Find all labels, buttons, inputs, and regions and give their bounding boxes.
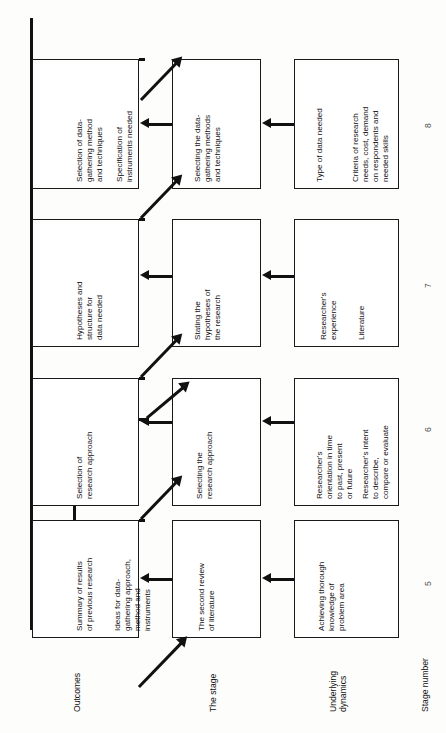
stage-text-5: The second review of literature xyxy=(197,563,217,631)
row-label-stage-number: Stage number xyxy=(420,658,430,712)
arrow-head-5-stage-to-outcomes xyxy=(140,573,149,583)
dynamics-text-6-a: Researcher's orientation in time to past… xyxy=(315,435,354,499)
arrow-shaft-7-dynamics-to-stage xyxy=(271,275,294,278)
stage-box-stage-7: Stating the hypotheses of the research xyxy=(172,219,261,347)
stage-box-stage-6: Selecting the research approach xyxy=(172,378,261,506)
outcomes-box-stage-7: Hypotheses and structure for data needed xyxy=(32,219,139,347)
arrow-shaft-6-stage-to-outcomes xyxy=(149,421,172,424)
stage-number-5: 5 xyxy=(423,581,433,586)
row-label-the-stage: The stage xyxy=(208,674,218,712)
stage-box-stage-5: The second review of literature xyxy=(172,520,261,638)
arrow-head-7-dynamics-to-stage xyxy=(262,270,271,280)
diagram-canvas: Selection of data- gathering method and … xyxy=(0,0,446,733)
arrow-head-7-stage-to-outcomes xyxy=(140,270,149,280)
outcomes-text-8-a: Selection of data- gathering method and … xyxy=(75,119,105,182)
outcomes-text-5-b: Ideas for data- gathering approach, meth… xyxy=(113,559,152,631)
arrow-head-8-stage-to-outcomes xyxy=(140,118,149,128)
stage-text-8: Selecting the data- gathering methods an… xyxy=(193,115,223,183)
dynamics-box-stage-6: Researcher's orientation in time to past… xyxy=(294,378,399,506)
outcomes-text-8-b: Specification of instruments needed xyxy=(115,111,135,182)
outcomes-text-7: Hypotheses and structure for data needed xyxy=(75,282,105,341)
stage-text-6: Selecting the research approach xyxy=(195,432,215,500)
stage-text-7: Stating the hypotheses of the research xyxy=(193,290,223,340)
arrow-shaft-6-dynamics-to-stage xyxy=(271,421,294,424)
arrow-shaft-8-stage-to-outcomes xyxy=(149,123,172,126)
outcomes-box-stage-5: Summary of results of previous research … xyxy=(32,520,139,638)
outcomes-box-stage-6: Selection of research approach xyxy=(32,378,139,506)
dynamics-text-7-a: Researcher's experience xyxy=(319,293,339,340)
row-label-outcomes: Outcomes xyxy=(72,673,82,712)
arrow-shaft-5-stage-to-outcomes xyxy=(149,578,172,581)
arrow-head-5-dynamics-to-stage xyxy=(262,573,271,583)
stage-number-7: 7 xyxy=(423,283,433,288)
dynamics-box-stage-5: Achieving thorough knowledge of problem … xyxy=(294,520,399,638)
arrow-shaft-5-dynamics-to-stage xyxy=(271,578,294,581)
arrow-head-6-dynamics-to-stage xyxy=(262,416,271,426)
arrow-head-8-dynamics-to-stage xyxy=(262,118,271,128)
dynamics-text-7-b: Literature xyxy=(357,306,367,340)
dynamics-text-8-a: Type of data needed xyxy=(315,108,325,182)
dynamics-text-8-b: Criteria of research needs, cost, demand… xyxy=(351,107,390,182)
outcomes-text-6: Selection of research approach xyxy=(75,432,95,500)
dynamics-text-5: Achieving thorough knowledge of problem … xyxy=(317,562,347,631)
stage-number-6: 6 xyxy=(423,427,433,432)
arrow-shaft-7-stage-to-outcomes xyxy=(149,275,172,278)
dynamics-box-stage-8: Type of data needed Criteria of research… xyxy=(294,59,399,189)
stage-box-stage-8: Selecting the data- gathering methods an… xyxy=(172,59,261,189)
dynamics-box-stage-7: Researcher's experience Literature xyxy=(294,219,399,347)
outcomes-text-5-a: Summary of results of previous research xyxy=(75,558,95,631)
dynamics-text-6-b: Researcher's intent to describe, compare… xyxy=(361,425,391,499)
stage-number-8: 8 xyxy=(423,123,433,128)
row-label-underlying-dynamics: Underlying dynamics xyxy=(328,671,349,712)
arrow-shaft-8-dynamics-to-stage xyxy=(271,123,294,126)
